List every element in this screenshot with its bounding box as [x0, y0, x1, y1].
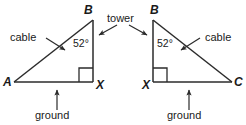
left-vertex-label-B: B — [84, 4, 93, 16]
right-vertex-label-B: B — [150, 4, 159, 16]
geometry-diagram: B A X 52° cable ground tower B X C 52° c… — [0, 0, 246, 125]
right-cable-label: cable — [205, 32, 231, 43]
right-tower-leader-arrow — [129, 25, 147, 35]
left-right-angle-marker — [79, 68, 93, 82]
left-tower-leader-arrow — [99, 25, 117, 35]
tower-label: tower — [107, 13, 134, 24]
left-triangle-shape — [14, 20, 93, 82]
left-vertex-label-X: X — [96, 79, 104, 91]
right-right-angle-marker — [153, 68, 167, 82]
left-angle-label: 52° — [73, 38, 89, 49]
right-angle-label: 52° — [157, 38, 173, 49]
left-cable-label: cable — [10, 32, 36, 43]
right-triangle-shape — [153, 20, 232, 82]
right-cable-segment-BC — [153, 20, 232, 82]
left-cable-segment-AB — [14, 20, 93, 82]
left-ground-label: ground — [35, 110, 69, 121]
right-vertex-label-X: X — [142, 79, 150, 91]
right-ground-label: ground — [167, 110, 201, 121]
right-vertex-label-C: C — [234, 76, 243, 88]
left-vertex-label-A: A — [3, 76, 12, 88]
